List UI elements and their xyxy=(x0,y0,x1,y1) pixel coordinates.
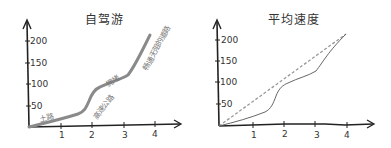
x-tick-label: 4 xyxy=(344,130,350,140)
average-speed-line xyxy=(219,34,346,126)
chart-canvas xyxy=(195,0,391,148)
y-tick-label: 150 xyxy=(220,56,237,66)
x-axis xyxy=(219,124,373,126)
y-tick-label: 150 xyxy=(30,58,47,68)
y-tick-label: 200 xyxy=(221,35,238,45)
x-axis xyxy=(29,124,180,127)
y-tick-label: 50 xyxy=(221,99,232,109)
x-tick-label: 4 xyxy=(152,129,158,139)
y-tick-label: 50 xyxy=(31,101,42,111)
x-tick-label: 3 xyxy=(314,130,320,140)
y-tick-label: 100 xyxy=(31,79,48,89)
x-tick-label: 2 xyxy=(282,129,288,139)
y-axis xyxy=(217,22,219,126)
x-tick-label: 1 xyxy=(59,130,65,140)
distance-curve xyxy=(219,34,346,126)
y-tick-label: 100 xyxy=(220,77,237,87)
x-tick-label: 1 xyxy=(251,130,257,140)
y-axis xyxy=(27,22,29,127)
y-tick-label: 200 xyxy=(30,36,47,46)
x-tick-label: 2 xyxy=(89,130,95,140)
chart-average-speed: 平均速度 200 150 100 50 1 2 3 4 xyxy=(195,0,391,148)
x-tick-label: 3 xyxy=(122,130,128,140)
chart-road-trip: 自驾游 200 150 100 50 1 2 3 4 土路 高速公路 xyxy=(0,0,195,148)
chart-canvas xyxy=(0,0,195,148)
